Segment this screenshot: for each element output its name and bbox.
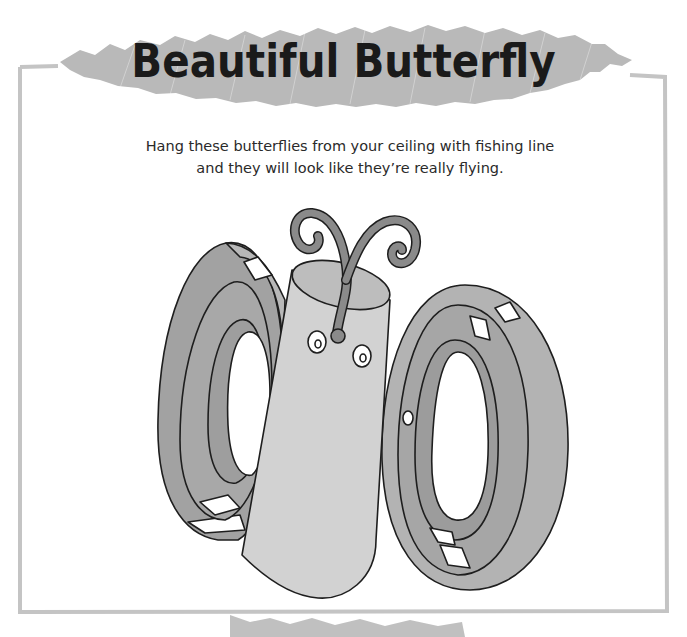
wing-hole [403, 411, 413, 425]
right-wing-loops [382, 285, 568, 590]
nose [331, 329, 345, 343]
left-pupil [315, 340, 321, 348]
right-pupil [360, 354, 366, 362]
butterfly-illustration [0, 0, 687, 637]
